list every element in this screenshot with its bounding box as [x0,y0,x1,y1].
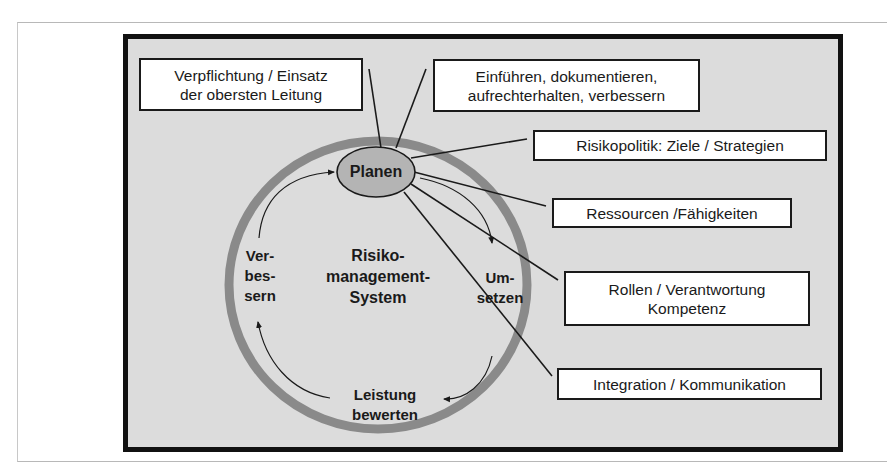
box-einfuehren: Einführen, dokumentieren, aufrechterhalt… [433,59,700,112]
phase-verbessern-label: Ver- bes- sern [235,246,285,306]
box-rollen: Rollen / Verantwortung Kompetenz [564,271,810,326]
phase-planen-label: Planen [337,162,415,182]
box-integration: Integration / Kommunikation [557,368,822,400]
phase-umsetzen-label: Um- setzen [470,268,530,308]
arrow-planen-to-umsetzen [420,178,492,243]
connector-verpflichtung [369,69,381,148]
arrow-umsetzen-to-leistung [444,356,492,399]
box-ressourcen: Ressourcen /Fähigkeiten [552,198,792,228]
phase-leistung-bewerten-label: Leistung bewerten [325,385,445,425]
connector-einfuehren [396,69,426,148]
box-verpflichtung: Verpflichtung / Einsatz der obersten Lei… [139,58,363,111]
center-label: Risiko- management- System [318,245,438,308]
box-risikopolitik: Risikopolitik: Ziele / Strategien [533,130,827,161]
